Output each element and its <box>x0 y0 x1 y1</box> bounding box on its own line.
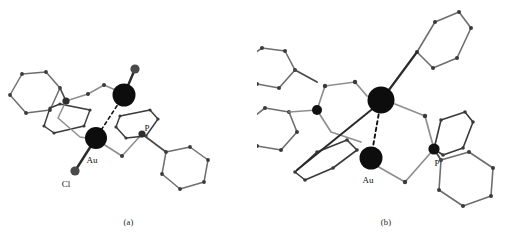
bond-upperleft-phenyl-p-b <box>295 70 317 82</box>
bridge-carbon-upper-a <box>86 92 90 96</box>
atom-spheres-a <box>62 64 145 175</box>
phenyl-ring-upper-left-b <box>257 48 295 88</box>
ring-vertices-edgeon-b <box>293 138 359 182</box>
chlorine-sphere-top-a <box>130 64 139 73</box>
ring-vertices-upper-left-b <box>257 46 297 90</box>
atom-label-au-a: Au <box>87 155 98 165</box>
bridge-carbon-b1 <box>323 84 327 88</box>
bridge-carbon-upper2-a <box>102 83 106 87</box>
ring-vertices-lower-left-b <box>257 106 299 152</box>
panel-caption-b: (b) <box>257 217 515 227</box>
phenyl-ring-edgeon-right-b <box>434 112 473 155</box>
atom-label-p-b: P <box>434 158 439 168</box>
atom-label-cl-a: Cl <box>62 179 71 189</box>
bridge-carbon-b4 <box>403 180 407 184</box>
phenyl-ring-lower-left-b <box>257 108 297 150</box>
gold-sphere-1-a <box>113 84 136 107</box>
bridge-carbon-lower-a <box>120 154 124 158</box>
molecular-structure-b: Au P <box>257 0 515 215</box>
panel-caption-a: (a) <box>0 217 257 227</box>
ring-vertices-left-a <box>8 70 62 115</box>
figure-root: Au Cl P (a) <box>0 0 515 239</box>
ring-vertices-right-a <box>160 145 210 191</box>
phenyl-ring-right-a <box>162 147 208 189</box>
phosphorus-sphere-left-a <box>62 97 69 104</box>
atom-label-p-a: P <box>144 123 149 133</box>
panel-b: Au P (b) <box>257 0 515 239</box>
bridge-chain-right-upper-b <box>395 104 434 149</box>
panel-a: Au Cl P (a) <box>0 0 257 239</box>
bonds-a <box>8 69 210 191</box>
chlorine-sphere-bottom-a <box>70 166 79 175</box>
bridge-carbon-b2 <box>353 80 357 84</box>
phosphorus-sphere-left-b <box>312 105 322 115</box>
atom-label-au-b: Au <box>363 175 374 185</box>
bond-p-phenyl-right-a <box>142 134 166 152</box>
bridge-chain-right-lower-b <box>377 149 434 182</box>
phosphorus-sphere-right-b <box>428 143 439 154</box>
phenyl-ring-top-right-b <box>417 12 471 68</box>
bridge-chain-upper-a <box>66 85 120 101</box>
gold-sphere-2-b <box>360 147 383 170</box>
gold-sphere-2-a <box>85 127 107 149</box>
phenyl-ring-bottom-right-b <box>439 152 493 206</box>
molecular-structure-a: Au Cl P <box>0 0 257 215</box>
gold-sphere-1-b <box>368 87 395 114</box>
bridge-carbon-b3 <box>423 114 427 118</box>
phenyl-ring-edgeon-right-a <box>116 110 158 138</box>
